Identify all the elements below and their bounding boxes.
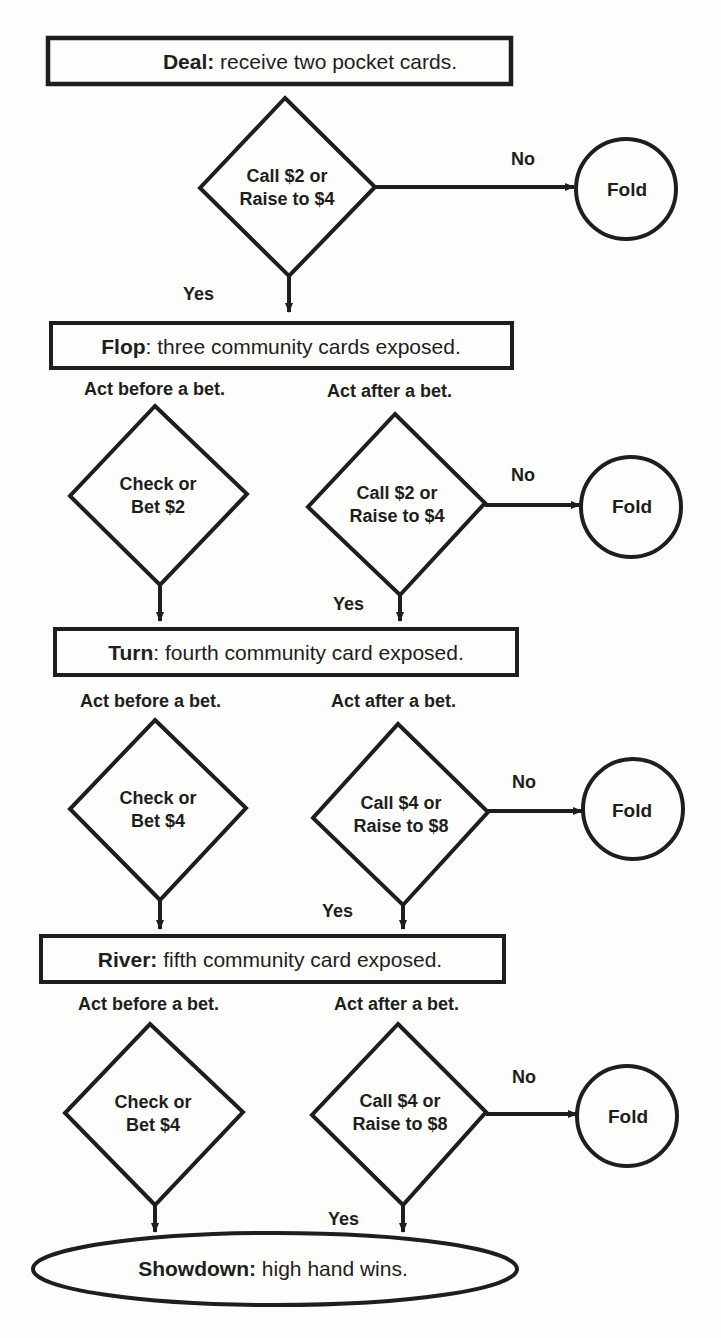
fold-label-1: Fold <box>607 180 647 199</box>
flop-act-before-label: Act before a bet. <box>84 380 225 398</box>
fold-label-2: Fold <box>612 497 652 516</box>
flop-no-label: No <box>511 466 535 484</box>
decision-line: Check or <box>119 473 196 496</box>
river-before-decision-text: Check orBet $4 <box>114 1091 191 1137</box>
river-no-label: No <box>512 1068 536 1086</box>
flop-stage-label: Flop: three community cards exposed. <box>101 336 460 357</box>
river-act-before-label: Act before a bet. <box>78 995 219 1013</box>
river-stage-label: River: fifth community card exposed. <box>98 949 442 970</box>
showdown-stage-text: high hand wins. <box>256 1257 408 1280</box>
river-stage-name: River: <box>98 948 158 971</box>
turn-after-decision-text: Call $4 orRaise to $8 <box>353 792 448 838</box>
decision-line: Raise to $8 <box>352 1113 447 1136</box>
flop-act-after-label: Act after a bet. <box>327 382 452 400</box>
flop-stage-name: Flop <box>101 335 145 358</box>
flop-before-decision-text: Check orBet $2 <box>119 473 196 519</box>
turn-yes-label: Yes <box>322 902 353 920</box>
deal-stage-name: Deal: <box>163 50 214 73</box>
turn-act-after-label: Act after a bet. <box>331 692 456 710</box>
deal-yes-label: Yes <box>183 285 214 303</box>
deal-stage-text: receive two pocket cards. <box>214 50 457 73</box>
decision-line: Call $2 or <box>349 482 444 505</box>
turn-no-label: No <box>512 773 536 791</box>
decision-line: Raise to $4 <box>239 188 334 211</box>
decision-line: Bet $4 <box>119 810 196 833</box>
deal-no-label: No <box>511 150 535 168</box>
river-act-after-label: Act after a bet. <box>334 995 459 1013</box>
river-stage-text: fifth community card exposed. <box>157 948 442 971</box>
river-after-decision-text: Call $4 orRaise to $8 <box>352 1090 447 1136</box>
decision-line: Bet $4 <box>114 1114 191 1137</box>
decision-line: Check or <box>119 787 196 810</box>
decision-line: Raise to $8 <box>353 815 448 838</box>
decision-line: Call $2 or <box>239 165 334 188</box>
river-yes-label: Yes <box>328 1210 359 1228</box>
deal-stage-label: Deal: receive two pocket cards. <box>163 51 457 72</box>
deal-decision-text: Call $2 orRaise to $4 <box>239 165 334 211</box>
decision-line: Bet $2 <box>119 496 196 519</box>
decision-line: Call $4 or <box>353 792 448 815</box>
fold-label-3: Fold <box>612 801 652 820</box>
turn-stage-text: : fourth community card exposed. <box>153 641 463 664</box>
turn-act-before-label: Act before a bet. <box>80 692 221 710</box>
showdown-stage-name: Showdown: <box>138 1257 256 1280</box>
flop-yes-label: Yes <box>333 595 364 613</box>
turn-stage-label: Turn: fourth community card exposed. <box>108 642 464 663</box>
flop-after-decision-text: Call $2 orRaise to $4 <box>349 482 444 528</box>
turn-before-decision-text: Check orBet $4 <box>119 787 196 833</box>
decision-line: Raise to $4 <box>349 505 444 528</box>
turn-stage-name: Turn <box>108 641 153 664</box>
flop-stage-text: : three community cards exposed. <box>146 335 461 358</box>
fold-label-4: Fold <box>608 1107 648 1126</box>
showdown-stage-label: Showdown: high hand wins. <box>138 1258 408 1279</box>
decision-line: Check or <box>114 1091 191 1114</box>
flowchart-canvas <box>0 0 721 1338</box>
decision-line: Call $4 or <box>352 1090 447 1113</box>
